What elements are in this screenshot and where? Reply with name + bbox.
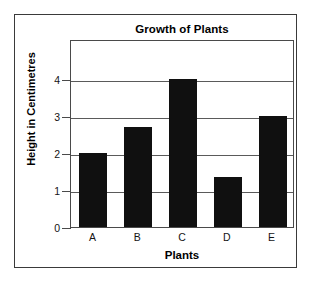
plot-area — [70, 40, 294, 228]
x-axis-title: Plants — [70, 249, 294, 261]
x-tick-label-C: C — [167, 231, 197, 244]
bar-B — [124, 127, 152, 227]
chart-title: Growth of Plants — [70, 20, 294, 38]
bar-C — [169, 79, 197, 227]
y-tick-0 — [62, 228, 71, 229]
y-tick-label-2: 2 — [44, 149, 60, 159]
y-axis-tick-labels: 01234 — [40, 0, 60, 284]
y-tick-label-4: 4 — [44, 75, 60, 85]
x-axis-tick-labels: ABCDE — [70, 231, 294, 245]
bar-E — [259, 116, 287, 227]
bar-A — [79, 153, 107, 227]
bar-chart-figure: Growth of Plants 01234 Height in Centime… — [0, 0, 313, 284]
y-tick-label-3: 3 — [44, 112, 60, 122]
y-tick-3 — [62, 117, 71, 118]
y-axis-title: Height in Centimetres — [25, 34, 37, 184]
x-tick-label-B: B — [122, 231, 152, 244]
y-tick-1 — [62, 191, 71, 192]
bar-D — [214, 177, 242, 227]
y-tick-2 — [62, 154, 71, 155]
x-tick-label-E: E — [257, 231, 287, 244]
plot-inner — [71, 41, 293, 227]
x-tick-label-D: D — [212, 231, 242, 244]
y-tick-4 — [62, 80, 71, 81]
y-tick-label-1: 1 — [44, 186, 60, 196]
x-tick-label-A: A — [77, 231, 107, 244]
y-axis-line — [70, 40, 71, 229]
y-tick-label-0: 0 — [44, 223, 60, 233]
